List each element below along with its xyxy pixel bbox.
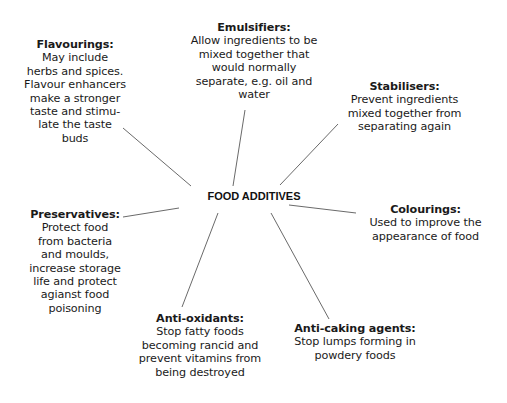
node-description: May include herbs and spices. Flavour en… xyxy=(14,51,136,145)
node-description: Stop lumps forming in powdery foods xyxy=(290,335,420,362)
node-anti-oxidants: Anti-oxidants: Stop fatty foods becoming… xyxy=(135,312,265,379)
connector-preservatives xyxy=(123,208,179,217)
node-anti-caking-agents: Anti-caking agents: Stop lumps forming i… xyxy=(290,322,420,362)
node-description: Used to improve the appearance of food xyxy=(363,216,488,243)
connector-anti-oxidants xyxy=(182,213,218,307)
node-emulsifiers: Emulsifiers: Allow ingredients to be mix… xyxy=(184,21,324,101)
node-title: Emulsifiers: xyxy=(184,21,324,34)
connector-colourings xyxy=(289,205,356,213)
node-title: Colourings: xyxy=(363,203,488,216)
node-title: Stabilisers: xyxy=(342,80,467,93)
node-title: Anti-caking agents: xyxy=(290,322,420,335)
node-title: Preservatives: xyxy=(25,208,125,221)
node-description: Stop fatty foods becoming rancid and pre… xyxy=(135,325,265,379)
node-flavourings: Flavourings: May include herbs and spice… xyxy=(14,38,136,145)
node-description: Allow ingredients to be mixed together t… xyxy=(184,34,324,101)
node-colourings: Colourings: Used to improve the appearan… xyxy=(363,203,488,243)
node-description: Prevent ingredients mixed together from … xyxy=(342,93,467,133)
node-description: Protect food from bacteria and moulds, i… xyxy=(25,221,125,315)
center-node-food-additives: FOOD ADDITIVES xyxy=(184,190,324,202)
node-stabilisers: Stabilisers: Prevent ingredients mixed t… xyxy=(342,80,467,134)
connector-stabilisers xyxy=(280,124,338,185)
connector-anti-caking xyxy=(271,213,329,319)
connector-emulsifiers xyxy=(233,110,245,186)
node-preservatives: Preservatives: Protect food from bacteri… xyxy=(25,208,125,315)
node-title: Flavourings: xyxy=(14,38,136,51)
node-title: Anti-oxidants: xyxy=(135,312,265,325)
